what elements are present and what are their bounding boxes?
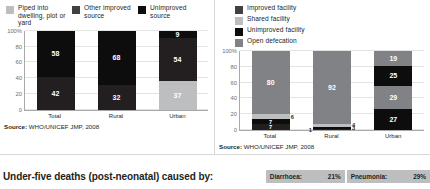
sanitation-chart-x-axis: Total Rural Urban: [239, 133, 424, 139]
bar-segment-shared-facility[interactable]: 25: [374, 66, 412, 86]
legend-item-open-defecation: Open defecation: [233, 37, 329, 47]
water-chart-x-axis: Total Rural Urban: [24, 113, 208, 119]
bar-urban[interactable]: 9 54 37: [159, 31, 197, 110]
bar-segment-value: 80: [267, 79, 275, 86]
legend-swatch-open-defecation-icon: [235, 39, 243, 47]
bar-urban[interactable]: 19 25 29 27: [374, 51, 412, 130]
y-axis-tick: 40: [231, 95, 237, 101]
infographic-page: Piped into dwelling, plot or yard Other …: [0, 0, 430, 189]
water-chart-plot-area: 100% 80 60 40 20 0 58 42: [4, 31, 208, 119]
bar-segment-value: 25: [389, 72, 397, 79]
legend-label: Piped into dwelling, plot or yard: [18, 4, 70, 27]
bar-segment-improved-facility[interactable]: 27: [374, 109, 412, 130]
x-axis-tick-total: Total: [251, 133, 289, 139]
x-axis-tick-urban: Urban: [374, 133, 412, 139]
bar-segment-value: 7: [269, 124, 272, 130]
source-prefix: Source:: [219, 143, 242, 150]
bar-segment-open-defecation[interactable]: 92: [313, 51, 351, 124]
sanitation-chart-legend: Improved facility Shared facility Unimpr…: [219, 4, 424, 48]
bar-segment-improved-facility[interactable]: 7: [252, 124, 290, 130]
bar-rural[interactable]: 92 4 3 1: [313, 51, 351, 130]
bar-segment-value: 37: [174, 92, 182, 99]
bar-segment-unimproved-facility[interactable]: 29: [374, 86, 412, 109]
bar-segment-other-improved-source[interactable]: 32: [98, 85, 136, 110]
bar-total[interactable]: 58 42 0: [37, 31, 75, 110]
bar-segment-unimproved-source[interactable]: 68: [98, 31, 136, 85]
bar-segment-value: 27: [389, 116, 397, 123]
bar-segment-value: 19: [389, 55, 397, 62]
water-chart-plot: 100% 80 60 40 20 0 58 42: [24, 31, 208, 111]
bar-segment-open-defecation[interactable]: 19: [374, 51, 412, 66]
water-chart-legend: Piped into dwelling, plot or yard Other …: [4, 4, 208, 28]
legend-swatch-unimproved-facility-icon: [235, 28, 243, 36]
y-axis-tick: 80: [16, 44, 22, 50]
sanitation-chart-panel: Improved facility Shared facility Unimpr…: [215, 0, 430, 155]
sanitation-chart-plot: 100% 80 60 40 20 0 80 6: [239, 51, 424, 131]
bar-segment-value: 6: [291, 114, 294, 120]
bar-segment-value: 9: [176, 31, 180, 38]
legend-item-other-improved-source: Other improved source: [70, 4, 136, 27]
bar-segment-other-improved-source[interactable]: 42: [37, 77, 75, 110]
y-axis-tick: 100%: [7, 28, 22, 34]
bar-segment-value: 92: [328, 84, 336, 91]
legend-label: Other improved source: [84, 4, 136, 19]
bar-segment-improved-facility[interactable]: 1: [313, 129, 351, 130]
y-axis-tick: 40: [16, 75, 22, 81]
stat-value: 29%: [413, 173, 426, 180]
water-chart-panel: Piped into dwelling, plot or yard Other …: [0, 0, 215, 155]
bar-total[interactable]: 80 6 7 7: [252, 51, 290, 130]
sanitation-chart-source: Source: WHO/UNICEF JMP, 2008: [219, 143, 424, 150]
sanitation-chart-plot-area: 100% 80 60 40 20 0 80 6: [219, 51, 424, 139]
legend-swatch-improved-facility-icon: [235, 6, 243, 14]
bar-segment-unimproved-source[interactable]: 9: [159, 31, 197, 38]
bar-segment-value: 42: [52, 90, 60, 97]
sanitation-chart-bars: 80 6 7 7: [240, 51, 424, 130]
y-axis-tick: 60: [231, 80, 237, 86]
legend-swatch-piped-icon: [6, 6, 14, 14]
x-axis-tick-rural: Rural: [312, 133, 350, 139]
legend-label: Open defecation: [247, 37, 297, 45]
y-axis-tick: 20: [231, 111, 237, 117]
legend-item-improved-facility: Improved facility: [233, 4, 329, 14]
stat-value: 21%: [328, 173, 341, 180]
y-axis-tick: 0: [19, 107, 22, 113]
bar-segment-value: 32: [113, 94, 121, 101]
x-axis-tick-urban: Urban: [158, 113, 196, 119]
bar-segment-value: 1: [309, 127, 312, 133]
source-prefix: Source:: [4, 123, 27, 130]
legend-swatch-unimproved-icon: [138, 6, 146, 14]
y-axis-tick: 80: [231, 64, 237, 70]
stat-label: Pneumonia:: [351, 173, 388, 180]
legend-label: Shared facility: [247, 15, 290, 23]
y-axis-tick: 20: [16, 91, 22, 97]
bar-segment-value: 68: [113, 54, 121, 61]
source-text: WHO/UNICEF JMP, 2008: [244, 143, 314, 150]
bar-segment-value: 29: [389, 94, 397, 101]
bar-segment-open-defecation[interactable]: 80: [252, 51, 290, 114]
bar-rural[interactable]: 68 32 0: [98, 31, 136, 110]
water-chart-bars: 58 42 0 68: [25, 31, 208, 110]
bar-segment-value: 54: [174, 56, 182, 63]
bar-segment-piped-into-dwelling[interactable]: 37: [159, 81, 197, 110]
bar-segment-value: 58: [52, 50, 60, 57]
bar-segment-unimproved-source[interactable]: 58: [37, 31, 75, 77]
legend-item-piped-into-dwelling: Piped into dwelling, plot or yard: [4, 4, 70, 27]
stat-pneumonia: Pneumonia: 29%: [347, 170, 430, 183]
under-five-deaths-banner: Under-five deaths (post-neonatal) caused…: [0, 163, 430, 189]
banner-stats: Diarrhoea: 21% Pneumonia: 29%: [264, 170, 430, 183]
x-axis-tick-rural: Rural: [97, 113, 135, 119]
legend-label: Unimproved source: [150, 4, 202, 19]
charts-container: Piped into dwelling, plot or yard Other …: [0, 0, 430, 155]
stat-diarrhoea: Diarrhoea: 21%: [266, 170, 345, 183]
stat-label: Diarrhoea:: [270, 173, 302, 180]
y-axis-tick: 0: [234, 127, 237, 133]
y-axis-tick: 60: [16, 59, 22, 65]
banner-title: Under-five deaths (post-neonatal) caused…: [0, 171, 213, 182]
legend-label: Unimproved facility: [247, 26, 305, 34]
y-axis-tick: 100%: [222, 48, 237, 54]
legend-item-unimproved-facility: Unimproved facility: [233, 26, 329, 36]
water-chart-source: Source: WHO/UNICEF JMP, 2008: [4, 123, 208, 130]
legend-item-shared-facility: Shared facility: [233, 15, 329, 25]
legend-swatch-shared-facility-icon: [235, 17, 243, 25]
bar-segment-other-improved-source[interactable]: 54: [159, 38, 197, 81]
